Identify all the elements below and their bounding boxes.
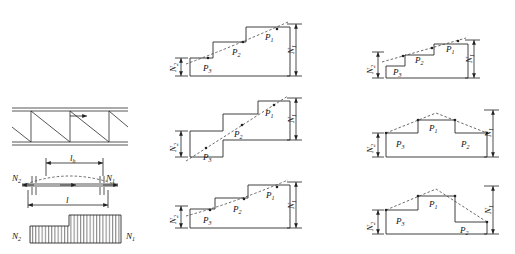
truss-elevation (12, 108, 128, 145)
br-P3-label: P3 (395, 216, 405, 227)
member-N2-label: N2 (11, 173, 21, 184)
br-N2-label: N2 (365, 222, 376, 232)
stepped-force-block: N2 N1 (11, 215, 135, 243)
tc-P2-label: P2 (231, 47, 241, 58)
tc-N1-label: N1 (286, 45, 297, 55)
block-N1-label: N1 (125, 231, 135, 242)
br-arch-outline (386, 196, 487, 234)
diagram-top-center: N2 P3 P2 P1 N1 (168, 22, 302, 76)
member-N1-label: N1 (105, 173, 115, 184)
deflection-curve (26, 176, 114, 184)
bc-N2-label: N2 (168, 215, 179, 225)
member-with-deflection: lh (11, 153, 118, 208)
mc-P1-label: P1 (264, 108, 274, 119)
mr-P1-label: P1 (428, 123, 438, 134)
mc-N1-label: N1 (286, 114, 297, 124)
figure-canvas: lh (0, 0, 515, 254)
tr-P3-label: P3 (392, 67, 402, 78)
mr-P3-label: P3 (395, 139, 405, 150)
br-P1-label: P1 (428, 199, 438, 210)
bc-P3-label: P3 (202, 215, 212, 226)
mc-P3-label: P3 (202, 152, 212, 163)
mc-N2-label: N2 (168, 143, 179, 153)
tr-N1-label: N1 (464, 54, 475, 64)
tr-P2-label: P2 (414, 55, 424, 66)
tr-P1-label: P1 (445, 44, 455, 55)
mr-P2-label: P2 (460, 139, 470, 150)
tc-N2-label: N2 (168, 63, 179, 73)
tc-P1-label: P1 (264, 32, 274, 43)
br-P2-label: P2 (459, 225, 469, 236)
l-label: l (66, 195, 69, 205)
bc-N1-label: N1 (286, 200, 297, 210)
bc-P1-label: P1 (265, 190, 275, 201)
diagram-bottom-right: N2 P3 P1 P2 N1 (365, 186, 499, 236)
diagram-bottom-center: N2 P3 P2 P1 N1 (168, 180, 302, 228)
mc-P2-label: P2 (233, 129, 243, 140)
diagram-mid-center: N2 P3 P2 P1 N1 (168, 96, 302, 163)
diagram-mid-right: N2 P3 P1 P2 N1 (365, 110, 499, 157)
tc-P3-label: P3 (202, 63, 212, 74)
block-N2-label: N2 (11, 231, 21, 242)
diagram-top-right: N2 P3 P2 P1 N1 (365, 38, 480, 78)
lh-label: lh (70, 153, 76, 164)
mr-N2-label: N2 (365, 144, 376, 154)
left-column: lh (11, 108, 135, 243)
bc-P2-label: P2 (232, 204, 242, 215)
br-N1-label: N1 (483, 205, 494, 215)
mr-N1-label: N1 (483, 128, 494, 138)
tr-N2-label: N2 (365, 65, 376, 75)
